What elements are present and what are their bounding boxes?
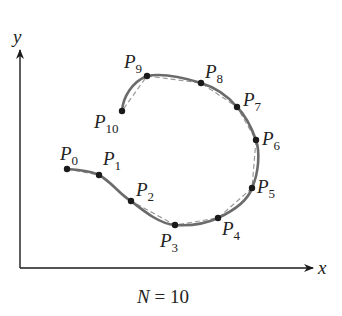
label-p6: P6 xyxy=(261,128,281,153)
point-p9 xyxy=(144,73,150,79)
point-p2 xyxy=(128,198,134,204)
point-p0 xyxy=(64,166,70,172)
label-p5: P5 xyxy=(256,176,275,201)
control-points xyxy=(64,73,259,228)
bezier-curve xyxy=(67,75,258,225)
point-p4 xyxy=(215,215,221,221)
label-p0: P0 xyxy=(59,143,78,168)
point-p8 xyxy=(198,80,204,86)
point-p5 xyxy=(249,185,255,191)
label-p4: P4 xyxy=(221,218,241,243)
point-p1 xyxy=(96,172,102,178)
label-p1: P1 xyxy=(102,148,121,173)
label-p3: P3 xyxy=(159,230,178,255)
label-p2: P2 xyxy=(135,179,154,204)
point-p10 xyxy=(119,108,125,114)
x-axis-label: x xyxy=(317,257,327,278)
label-p10: P10 xyxy=(93,111,119,136)
label-p9: P9 xyxy=(123,51,142,76)
y-axis-label: y xyxy=(11,26,22,47)
point-p3 xyxy=(172,222,178,228)
caption: N = 10 xyxy=(136,286,189,307)
label-p8: P8 xyxy=(204,61,223,86)
diagram-canvas: y x P0 P1 P2 P3 P4 P5 P6 P7 P8 P9 P10 N … xyxy=(0,0,342,316)
label-p7: P7 xyxy=(242,89,262,114)
point-p7 xyxy=(234,104,240,110)
point-p6 xyxy=(253,137,259,143)
